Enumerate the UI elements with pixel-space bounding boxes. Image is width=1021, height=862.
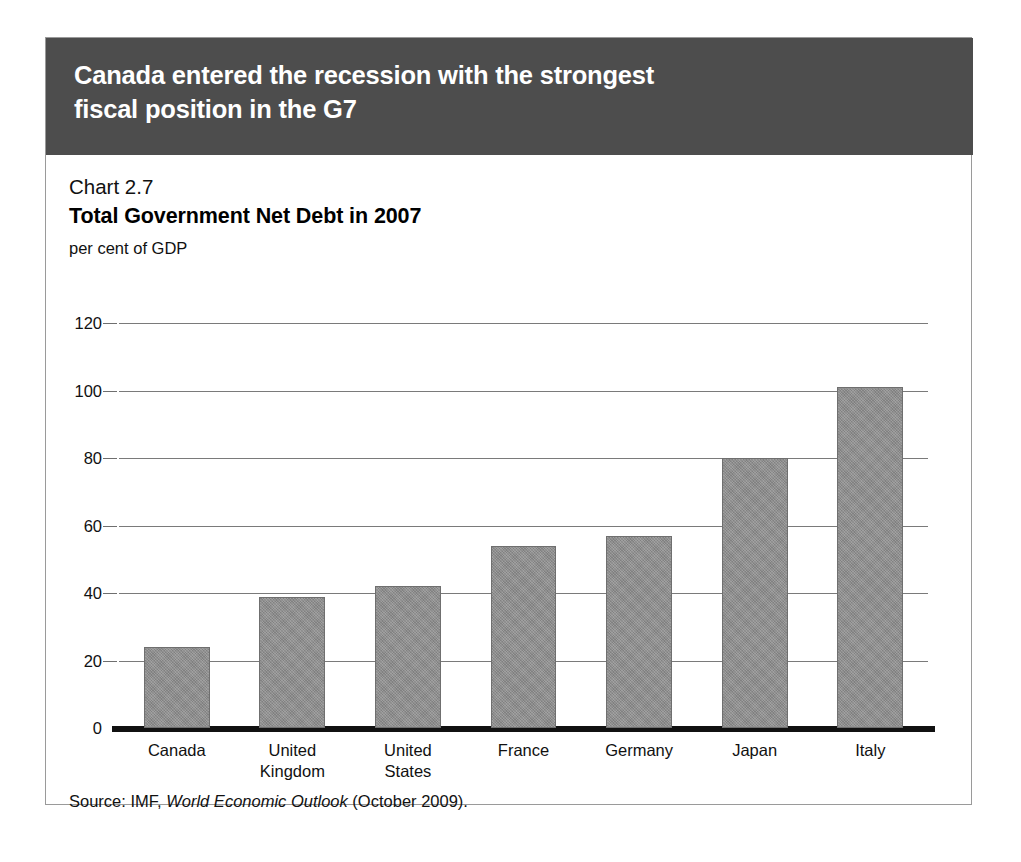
plot-area: 020406080100120 CanadaUnited KingdomUnit… xyxy=(46,155,973,805)
bar-slot xyxy=(235,323,351,728)
y-axis-tick-label: 80 xyxy=(84,450,102,467)
x-axis-category-label: United States xyxy=(350,740,466,782)
banner-title: Canada entered the recession with the st… xyxy=(74,59,945,127)
bar-slot xyxy=(119,323,235,728)
y-axis-tick xyxy=(103,323,117,324)
y-axis-tick xyxy=(103,661,117,662)
y-axis-tick-label: 60 xyxy=(84,517,102,534)
banner: Canada entered the recession with the st… xyxy=(46,38,973,155)
bar[interactable] xyxy=(144,647,210,728)
y-axis-tick-label: 120 xyxy=(74,315,102,332)
x-axis-category-label: Canada xyxy=(119,740,235,782)
bar[interactable] xyxy=(375,586,441,728)
bar-slot xyxy=(812,323,928,728)
chart-body: Chart 2.7 Total Government Net Debt in 2… xyxy=(46,155,973,805)
y-axis-tick xyxy=(103,391,117,392)
bar[interactable] xyxy=(259,597,325,728)
y-axis-tick-label: 40 xyxy=(84,585,102,602)
y-axis-tick-label: 20 xyxy=(84,652,102,669)
page-canvas: Canada entered the recession with the st… xyxy=(0,0,1021,862)
x-axis-labels: CanadaUnited KingdomUnited StatesFranceG… xyxy=(119,740,928,782)
bars-group xyxy=(119,323,928,728)
bar-slot xyxy=(466,323,582,728)
bar[interactable] xyxy=(606,536,672,728)
source-publication: World Economic Outlook xyxy=(166,792,348,810)
source-note: Source: IMF, World Economic Outlook (Oct… xyxy=(69,793,468,810)
bar-slot xyxy=(350,323,466,728)
y-axis-labels: 020406080100120 xyxy=(54,323,102,728)
bar[interactable] xyxy=(722,458,788,728)
chart-card: Canada entered the recession with the st… xyxy=(45,37,972,805)
y-axis-tick-label: 0 xyxy=(93,720,102,737)
x-axis-category-label: France xyxy=(466,740,582,782)
y-axis-tick xyxy=(103,526,117,527)
bar[interactable] xyxy=(837,387,903,728)
y-axis-tick xyxy=(103,593,117,594)
bar-slot xyxy=(697,323,813,728)
x-axis-category-label: Japan xyxy=(697,740,813,782)
x-axis-category-label: Italy xyxy=(812,740,928,782)
x-axis-category-label: Germany xyxy=(581,740,697,782)
x-axis-category-label: United Kingdom xyxy=(235,740,351,782)
y-axis-tick-label: 100 xyxy=(74,382,102,399)
bar[interactable] xyxy=(491,546,557,728)
bar-slot xyxy=(581,323,697,728)
y-axis-tick xyxy=(103,458,117,459)
